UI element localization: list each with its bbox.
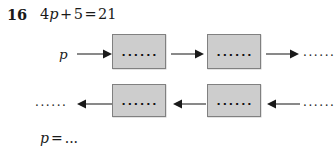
top-row-box-2-label: ...... [208, 46, 260, 57]
arrow-box1-to-output-left-icon [76, 97, 112, 111]
equation-plus-sign: + [59, 6, 74, 22]
answer-line: p=... [40, 130, 78, 146]
bottom-row-box-1-label: ...... [113, 95, 165, 106]
top-row-box-2[interactable]: ...... [207, 34, 261, 69]
arrow-input-to-box1-icon [77, 47, 113, 61]
answer-equals-sign: = [49, 130, 65, 146]
equation-result: 21 [98, 6, 116, 22]
arrow-box2-to-output-icon [266, 47, 300, 61]
bottom-row-box-2-label: ...... [208, 95, 260, 106]
top-row-input-label: p [59, 46, 68, 62]
arrow-box2-to-box1-left-icon [172, 97, 206, 111]
top-row-output-placeholder[interactable]: ...... [303, 45, 336, 59]
equation-constant: 5 [74, 6, 83, 22]
equation-coefficient: 4 [40, 6, 49, 22]
question-equation: 4p+5=21 [40, 6, 117, 22]
question-header: 16 4p+5=21 [0, 6, 332, 30]
arrow-input-right-to-box2-icon [266, 97, 300, 111]
bottom-row-box-2[interactable]: ...... [207, 84, 261, 117]
bottom-row-input-placeholder[interactable]: ...... [303, 95, 336, 109]
bottom-row-output-placeholder[interactable]: ...... [35, 95, 68, 109]
answer-variable: p [40, 130, 49, 146]
bottom-row-box-1[interactable]: ...... [112, 84, 166, 117]
machine-row-top: p ...... ...... ...... [0, 34, 332, 74]
answer-value-placeholder[interactable]: ... [65, 130, 78, 146]
arrow-box1-to-box2-icon [171, 47, 205, 61]
top-row-box-1[interactable]: ...... [112, 34, 166, 69]
machine-row-bottom: ...... ...... ...... ...... [0, 83, 332, 123]
equation-equals-sign: = [83, 6, 98, 22]
equation-variable: p [49, 6, 58, 22]
question-number: 16 [7, 6, 27, 23]
top-row-box-1-label: ...... [113, 46, 165, 57]
